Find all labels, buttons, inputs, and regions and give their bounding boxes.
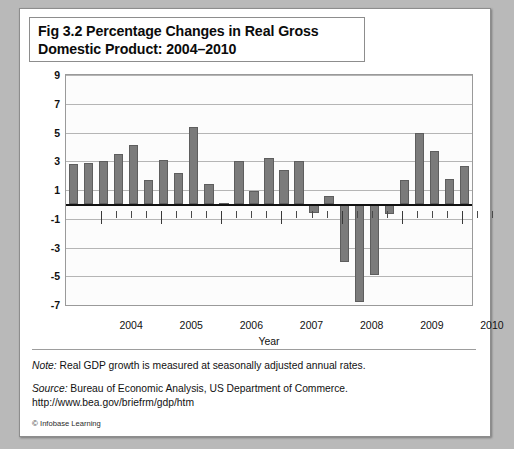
x-axis-tick-label: 2010: [480, 319, 503, 331]
page-background: Fig 3.2 Percentage Changes in Real Gross…: [0, 0, 514, 449]
bar: [84, 163, 93, 205]
note-label: Note:: [32, 360, 57, 371]
x-axis-minor-tick: [116, 211, 117, 218]
x-axis-tick-label: 2006: [240, 319, 263, 331]
x-axis-major-tick: [342, 211, 343, 224]
x-axis-minor-tick: [312, 211, 313, 218]
x-axis-tick-label: 2008: [360, 319, 383, 331]
note-row: Note: Real GDP growth is measured at sea…: [32, 359, 476, 373]
bar-series: [66, 75, 472, 305]
bar: [144, 180, 153, 204]
x-axis-minor-tick: [176, 211, 177, 218]
x-axis-major-tick: [462, 211, 463, 224]
chart-area: 97531-1-3-5-7 20042005200620072008200920…: [29, 66, 481, 341]
plot-canvas: [65, 74, 473, 306]
x-axis-minor-tick: [387, 211, 388, 218]
y-axis-tick-label: 5: [54, 127, 60, 139]
publisher-credit: © Infobase Learning: [32, 419, 476, 428]
y-axis-tick-label: 7: [54, 98, 60, 110]
figure-card: Fig 3.2 Percentage Changes in Real Gross…: [19, 8, 491, 437]
source-url[interactable]: http://www.bea.gov/briefrm/gdp/htm: [32, 397, 194, 408]
bar: [129, 145, 138, 204]
x-axis-title: Year: [65, 335, 473, 347]
plot-outer: 97531-1-3-5-7 20042005200620072008200920…: [65, 74, 473, 306]
bar: [294, 161, 303, 204]
bar: [99, 161, 108, 204]
x-axis-tick-label: 2007: [300, 319, 323, 331]
y-axis-tick-label: -1: [51, 213, 60, 225]
source-row: Source: Bureau of Economic Analysis, US …: [32, 382, 476, 410]
y-axis-tick-label: -5: [51, 270, 60, 282]
y-axis-tick-label: -3: [51, 242, 60, 254]
x-axis-minor-tick: [206, 211, 207, 218]
bar: [174, 173, 183, 205]
notes-divider: [32, 349, 476, 350]
note-text: Real GDP growth is measured at seasonall…: [57, 360, 366, 371]
x-axis-tick-label: 2005: [180, 319, 203, 331]
bar: [400, 180, 409, 204]
x-axis-major-tick: [281, 211, 282, 224]
x-axis-tick-label: 2004: [119, 319, 142, 331]
bar: [460, 166, 469, 205]
gridline: [66, 305, 472, 306]
x-axis-major-tick: [161, 211, 162, 224]
x-axis-major-tick: [402, 211, 403, 224]
y-axis-tick-label: 1: [54, 184, 60, 196]
bar: [234, 161, 243, 204]
bar: [415, 133, 424, 205]
x-axis-minor-tick: [266, 211, 267, 218]
x-axis-minor-tick: [146, 211, 147, 218]
bar: [279, 170, 288, 205]
x-axis-minor-tick: [327, 211, 328, 218]
y-axis-tick-label: 3: [54, 155, 60, 167]
source-label: Source:: [32, 383, 68, 394]
x-axis-minor-tick: [131, 211, 132, 218]
bar: [430, 151, 439, 204]
bar: [204, 184, 213, 204]
x-axis-minor-tick: [432, 211, 433, 218]
bar: [249, 191, 258, 204]
x-axis-minor-tick: [251, 211, 252, 218]
bar: [445, 179, 454, 205]
x-axis-minor-tick: [296, 211, 297, 218]
bar: [264, 158, 273, 204]
x-axis-minor-tick: [357, 211, 358, 218]
y-axis-tick-label: -7: [51, 299, 60, 311]
publisher-name: Infobase Learning: [38, 419, 101, 428]
x-axis-minor-tick: [372, 211, 373, 218]
bar: [355, 204, 364, 302]
bar: [189, 127, 198, 205]
figure-notes: Note: Real GDP growth is measured at sea…: [32, 349, 476, 428]
x-axis-major-tick: [221, 211, 222, 224]
source-text: Bureau of Economic Analysis, US Departme…: [68, 383, 348, 394]
bar: [324, 196, 333, 205]
bar: [69, 164, 78, 204]
x-axis-minor-tick: [417, 211, 418, 218]
x-axis-minor-tick: [236, 211, 237, 218]
x-axis-minor-tick: [447, 211, 448, 218]
x-axis-tick-label: 2009: [420, 319, 443, 331]
x-axis-minor-tick: [191, 211, 192, 218]
page-title: Fig 3.2 Percentage Changes in Real Gross…: [38, 22, 356, 58]
zero-axis-line: [66, 204, 472, 206]
figure-title-box: Fig 3.2 Percentage Changes in Real Gross…: [29, 17, 365, 62]
y-axis-tick-label: 9: [54, 69, 60, 81]
bar: [159, 160, 168, 205]
x-axis-major-tick: [101, 211, 102, 224]
x-axis-minor-tick: [492, 211, 493, 218]
x-axis-minor-tick: [477, 211, 478, 218]
bar: [114, 154, 123, 204]
